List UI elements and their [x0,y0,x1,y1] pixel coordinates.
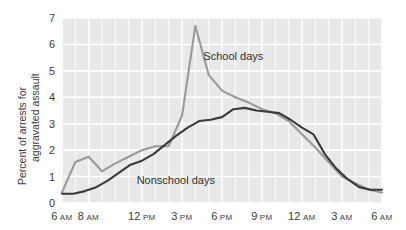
x-axis-tick-labels: 6AM8AM12PM3PM6PM9PM12AM3AM6AM [51,210,392,222]
x-tick-label: 3PM [171,210,192,222]
x-tick-hour: 12 [128,210,140,222]
x-tick-hour: 8 [78,210,84,222]
x-tick-meridian: PM [220,213,233,222]
y-tick-label: 5 [49,65,55,77]
x-tick-label: 6AM [371,210,392,222]
arrests-by-time-of-day-line-chart: 01234567 6AM8AM12PM3PM6PM9PM12AM3AM6AM P… [0,0,406,230]
y-axis-tick-labels: 01234567 [49,12,55,209]
chart-figure: 01234567 6AM8AM12PM3PM6PM9PM12AM3AM6AM P… [0,0,406,230]
x-tick-label: 6PM [211,210,232,222]
series-annotation-label: School days [203,50,263,62]
x-tick-hour: 3 [171,210,177,222]
series-annotation-label: Nonschool days [137,174,216,186]
y-tick-label: 3 [49,118,55,130]
x-tick-meridian: PM [180,213,193,222]
x-tick-label: 12AM [288,210,315,222]
x-tick-hour: 6 [51,210,57,222]
y-tick-label: 0 [49,197,55,209]
x-tick-meridian: AM [303,213,316,222]
y-tick-label: 1 [49,171,55,183]
x-tick-label: 9PM [251,210,272,222]
x-tick-label: 6AM [51,210,72,222]
y-axis-title-line-2: aggravated assault [29,73,41,162]
y-tick-label: 7 [49,12,55,24]
y-axis-title-line-1: Percent of arrests for [16,86,28,185]
x-tick-meridian: PM [143,213,156,222]
x-tick-hour: 12 [288,210,300,222]
x-tick-label: 8AM [78,210,99,222]
x-tick-hour: 6 [371,210,377,222]
y-tick-label: 2 [49,144,55,156]
x-tick-hour: 3 [331,210,337,222]
x-tick-meridian: AM [380,213,393,222]
y-tick-label: 4 [49,91,55,103]
x-tick-meridian: PM [260,213,273,222]
y-tick-label: 6 [49,38,55,50]
x-tick-hour: 9 [251,210,257,222]
x-tick-meridian: AM [340,213,353,222]
x-tick-label: 3AM [331,210,352,222]
x-tick-meridian: AM [87,213,100,222]
y-axis-title-group: Percent of arrests for aggravated assaul… [16,73,41,185]
x-tick-hour: 6 [211,210,217,222]
x-tick-meridian: AM [60,213,73,222]
x-tick-label: 12PM [128,210,155,222]
